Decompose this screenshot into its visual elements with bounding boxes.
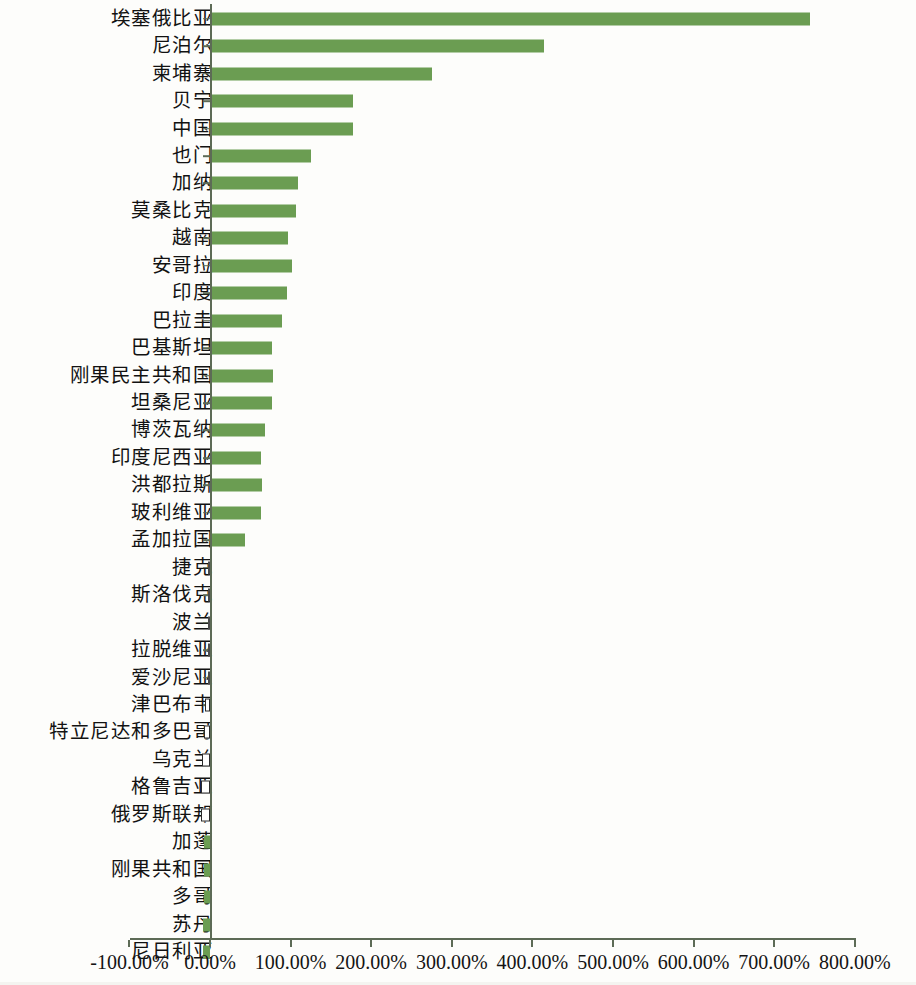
chart-row: 越南 (0, 225, 916, 252)
chart-row: 加纳 (0, 170, 916, 197)
x-axis-tick (451, 940, 453, 947)
bar (210, 149, 311, 162)
chart-row: 埃塞俄比亚 (0, 5, 916, 32)
chart-row: 爱沙尼亚 (0, 664, 916, 691)
chart-row: 俄罗斯联邦 (0, 801, 916, 828)
chart-row: 洪都拉斯 (0, 472, 916, 499)
chart-row: 捷克 (0, 554, 916, 581)
chart-row: 加蓬 (0, 829, 916, 856)
x-axis-tick (290, 940, 292, 947)
x-axis-tick (531, 940, 533, 947)
category-label: 俄罗斯联邦 (111, 805, 214, 825)
chart-row: 博茨瓦纳 (0, 417, 916, 444)
chart-row: 刚果民主共和国 (0, 362, 916, 389)
chart-row: 印度 (0, 280, 916, 307)
chart-row: 坦桑尼亚 (0, 389, 916, 416)
x-axis-line (130, 938, 856, 940)
chart-row: 孟加拉国 (0, 527, 916, 554)
chart-row: 刚果共和国 (0, 856, 916, 883)
bar (210, 177, 298, 190)
x-axis-tick-label: 600.00% (658, 952, 730, 972)
chart-row: 玻利维亚 (0, 499, 916, 526)
bar (210, 451, 261, 464)
chart-row: 中国 (0, 115, 916, 142)
bar (210, 314, 282, 327)
chart-row: 乌克兰 (0, 746, 916, 773)
x-axis-tick (854, 940, 856, 947)
chart-row: 巴拉圭 (0, 307, 916, 334)
x-axis-tick-label: 300.00% (416, 952, 488, 972)
category-label: 津巴布韦 (131, 695, 213, 715)
bar (210, 397, 272, 410)
plot-area: 埃塞俄比亚尼泊尔柬埔寨贝宁中国也门加纳莫桑比克越南安哥拉印度巴拉圭巴基斯坦刚果民… (0, 0, 916, 945)
chart-row: 印度尼西亚 (0, 444, 916, 471)
category-label: 孟加拉国 (131, 531, 213, 551)
bar (210, 342, 272, 355)
x-axis-tick (128, 940, 130, 947)
chart-row: 津巴布韦 (0, 691, 916, 718)
category-label: 斯洛伐克 (131, 585, 213, 605)
chart-row: 也门 (0, 142, 916, 169)
bar (210, 369, 273, 382)
x-axis-tick-label: 200.00% (335, 952, 407, 972)
category-label: 埃塞俄比亚 (111, 9, 214, 29)
x-axis-tick (370, 940, 372, 947)
category-label: 刚果共和国 (111, 860, 214, 880)
category-label: 洪都拉斯 (131, 476, 213, 496)
category-label: 印度尼西亚 (111, 448, 214, 468)
x-axis-tick-label: 500.00% (577, 952, 649, 972)
category-label: 玻利维亚 (131, 503, 213, 523)
chart-row: 柬埔寨 (0, 60, 916, 87)
chart-row: 波兰 (0, 609, 916, 636)
bar (210, 424, 265, 437)
x-axis-tick (209, 940, 211, 947)
x-axis-tick (612, 940, 614, 947)
x-axis-tick-label: 700.00% (738, 952, 810, 972)
chart-row: 巴基斯坦 (0, 334, 916, 361)
chart-row: 苏丹 (0, 911, 916, 938)
bar (210, 12, 810, 25)
x-axis-tick-label: 400.00% (497, 952, 569, 972)
chart-row: 尼泊尔 (0, 32, 916, 59)
x-axis-tick-label: 100.00% (255, 952, 327, 972)
category-label: 坦桑尼亚 (131, 393, 213, 413)
chart-row: 贝宁 (0, 87, 916, 114)
x-axis-tick (693, 940, 695, 947)
category-label: 巴基斯坦 (131, 338, 213, 358)
bar (210, 67, 432, 80)
bar (210, 259, 292, 272)
bar (210, 40, 544, 53)
bar (210, 479, 262, 492)
bar-chart: 埃塞俄比亚尼泊尔柬埔寨贝宁中国也门加纳莫桑比克越南安哥拉印度巴拉圭巴基斯坦刚果民… (0, 0, 916, 985)
bar (210, 122, 353, 135)
bar (210, 287, 287, 300)
x-axis-tick (773, 940, 775, 947)
bar (210, 232, 288, 245)
x-axis-tick-label: -100.00% (90, 952, 168, 972)
chart-row: 特立尼达和多巴哥 (0, 719, 916, 746)
x-axis-tick-label: 0.00% (184, 952, 236, 972)
chart-row: 拉脱维亚 (0, 636, 916, 663)
bar (210, 534, 245, 547)
category-label: 刚果民主共和国 (70, 366, 214, 386)
chart-row: 多哥 (0, 883, 916, 910)
category-label: 爱沙尼亚 (131, 668, 213, 688)
bar (210, 204, 296, 217)
bar (210, 95, 353, 108)
chart-row: 莫桑比克 (0, 197, 916, 224)
bar (210, 506, 261, 519)
category-label: 莫桑比克 (131, 201, 213, 221)
chart-row: 格鲁吉亚 (0, 774, 916, 801)
category-label: 博茨瓦纳 (131, 421, 213, 441)
y-axis-line (210, 4, 212, 938)
chart-row: 安哥拉 (0, 252, 916, 279)
chart-row: 斯洛伐克 (0, 581, 916, 608)
category-label: 拉脱维亚 (131, 640, 213, 660)
x-axis-tick-label: 800.00% (819, 952, 891, 972)
category-label: 特立尼达和多巴哥 (49, 723, 213, 743)
